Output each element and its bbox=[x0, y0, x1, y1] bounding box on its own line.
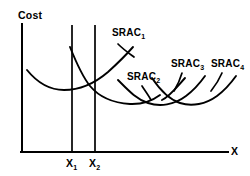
srac2-leader bbox=[142, 86, 151, 100]
x2-tick-label: X2 bbox=[89, 158, 100, 169]
srac3-label-subscript: 3 bbox=[200, 64, 204, 71]
x1-tick-label: X1 bbox=[66, 158, 77, 169]
srac2-label-base: SRAC bbox=[127, 71, 156, 82]
y-axis-label: Cost bbox=[18, 10, 42, 21]
srac2-label-subscript: 2 bbox=[156, 77, 160, 84]
srac4-label-subscript: 4 bbox=[240, 64, 244, 71]
srac4-label: SRAC4 bbox=[211, 59, 244, 69]
srac-curve-4 bbox=[162, 78, 185, 100]
srac1-label-base: SRAC bbox=[112, 27, 141, 38]
srac1-label: SRAC1 bbox=[112, 28, 145, 38]
srac4-label-base: SRAC bbox=[211, 58, 240, 69]
x-axis-label: X bbox=[231, 146, 238, 157]
srac4-leader bbox=[211, 73, 222, 91]
srac3-label: SRAC3 bbox=[171, 59, 204, 69]
srac1-label-subscript: 1 bbox=[141, 33, 145, 40]
x2-tick-subscript: 2 bbox=[96, 164, 100, 171]
srac2-label: SRAC2 bbox=[127, 72, 160, 82]
cost-curve-figure: Cost X X1 X2 SRAC1 SRAC2 SRAC3 SRAC4 bbox=[0, 0, 250, 176]
x1-tick-subscript: 1 bbox=[73, 164, 77, 171]
srac3-label-base: SRAC bbox=[171, 58, 200, 69]
